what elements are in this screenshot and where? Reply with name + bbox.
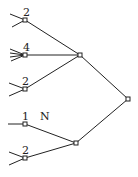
leaf-label-b: 4 <box>23 41 30 54</box>
leaf-label-c: 2 <box>22 75 29 88</box>
leaf-label-a: 2 <box>23 6 30 19</box>
leaf-label-e: 2 <box>22 144 29 157</box>
node-root <box>126 97 130 101</box>
leaf-stubs <box>8 14 25 165</box>
leaf-label-d: 1 <box>22 110 29 123</box>
node-internal-m1 <box>78 53 82 57</box>
annotation-n: N <box>40 110 50 123</box>
node-internal-m2 <box>74 141 78 145</box>
tree-edges <box>25 20 128 158</box>
tree-diagram: 2 4 2 1 N 2 <box>0 0 138 177</box>
